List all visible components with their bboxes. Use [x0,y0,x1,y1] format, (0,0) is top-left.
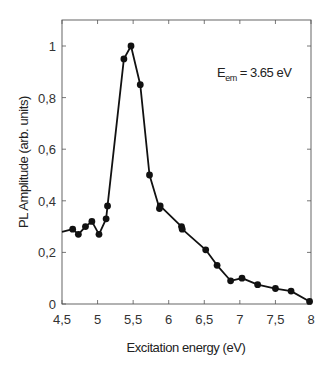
plot-frame [62,20,311,304]
data-point [239,275,246,282]
data-point [254,281,261,288]
data-point [157,203,164,210]
data-point [69,226,76,233]
x-tick-label: 5,5 [124,312,142,327]
y-axis-label: PL Amplitude (arb. units) [16,96,31,228]
x-axis-label: Excitation energy (eV) [126,340,245,355]
y-tick-label: 0,4 [38,194,56,209]
data-point [179,226,186,233]
data-series [62,43,313,305]
x-tick-label: 6 [165,312,172,327]
data-point [104,203,111,210]
data-point [288,288,295,295]
data-point [75,231,82,238]
data-point [120,56,127,63]
data-point [128,43,135,50]
data-point [137,81,144,88]
series-line [62,46,310,301]
data-point [202,246,209,253]
emission-energy-annotation: Eem = 3.65 eV [217,65,292,83]
data-point [146,172,153,179]
data-point [82,223,89,230]
x-tick-label: 5 [94,312,101,327]
data-point [103,215,110,222]
data-point [214,262,221,269]
y-tick-label: 0 [49,297,56,312]
data-point [272,285,279,292]
data-point [227,277,234,284]
y-tick-label: 0,8 [38,91,56,106]
data-point [96,231,103,238]
x-tick-label: 7 [236,312,243,327]
data-point [306,298,313,305]
data-point [88,218,95,225]
plot-border [62,20,311,304]
y-tick-label: 0,6 [38,142,56,157]
x-tick-label: 8 [307,312,314,327]
y-tick-label: 0,2 [38,245,56,260]
y-tick-label: 1 [49,39,56,54]
x-tick-label: 4,5 [53,312,71,327]
x-tick-label: 7,5 [266,312,284,327]
pl-amplitude-chart: 4,555,566,577,58 00,20,40,60,81 Excitati… [0,0,329,372]
x-tick-label: 6,5 [195,312,213,327]
